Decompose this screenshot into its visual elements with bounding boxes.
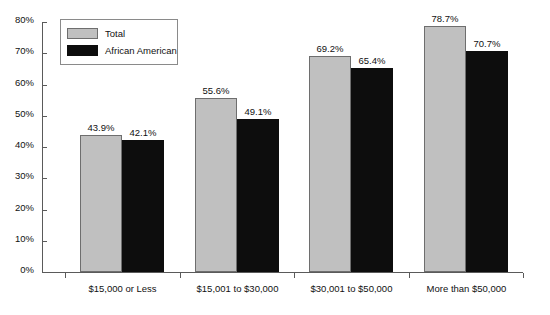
footnote-cropped — [40, 308, 470, 315]
y-axis-tick-label: 30% — [15, 171, 34, 181]
bar-value-label: 65.4% — [345, 55, 399, 66]
bar-value-label: 70.7% — [460, 38, 514, 49]
x-axis-tick-mark — [409, 273, 410, 278]
y-axis-tick-label: 80% — [15, 15, 34, 25]
bar-value-label: 49.1% — [231, 106, 285, 117]
y-axis-tick-label: 0% — [20, 265, 34, 275]
bar-value-label: 78.7% — [418, 13, 472, 24]
legend-label-african-american: African American — [105, 45, 177, 56]
y-axis-tick-mark — [42, 210, 47, 211]
y-axis-tick-mark — [42, 22, 47, 23]
x-axis-tick-mark — [294, 273, 295, 278]
x-axis-tick-mark — [65, 273, 66, 278]
y-axis-tick-mark — [42, 85, 47, 86]
y-axis-tick-mark — [42, 178, 47, 179]
bar-value-label: 55.6% — [189, 85, 243, 96]
bar-african-american — [466, 51, 508, 272]
y-axis-tick-mark — [42, 147, 47, 148]
bar-african-american — [351, 68, 393, 272]
y-axis-tick-label: 10% — [15, 234, 34, 244]
y-axis-tick-mark — [42, 272, 47, 273]
chart-legend: Total African American — [60, 19, 178, 65]
bar-value-label: 42.1% — [116, 127, 170, 138]
legend-item-total: Total — [67, 25, 171, 42]
bar-chart: 0%10%20%30%40%50%60%70%80% 43.9%42.1%55.… — [0, 0, 550, 315]
legend-item-african-american: African American — [67, 42, 171, 59]
bar-african-american — [122, 140, 164, 272]
y-axis-tick-mark — [42, 53, 47, 54]
bar-total — [195, 98, 237, 272]
bar-value-label: 69.2% — [303, 43, 357, 54]
x-axis-tick-mark — [180, 273, 181, 278]
y-axis-tick-label: 60% — [15, 78, 34, 88]
bar-african-american — [237, 119, 279, 272]
y-axis-tick-label: 20% — [15, 203, 34, 213]
y-axis-tick-mark — [42, 116, 47, 117]
legend-label-total: Total — [105, 28, 125, 39]
x-axis-line — [42, 272, 523, 273]
legend-swatch-total-icon — [67, 28, 98, 39]
y-axis-tick-label: 70% — [15, 46, 34, 56]
y-axis-tick-mark — [42, 241, 47, 242]
bar-total — [80, 135, 122, 272]
legend-swatch-african-american-icon — [67, 45, 98, 56]
bar-total — [309, 56, 351, 272]
y-axis-tick-label: 50% — [15, 109, 34, 119]
x-axis-category-label: More than $50,000 — [397, 283, 536, 294]
bar-total — [424, 26, 466, 272]
x-axis-tick-mark — [523, 273, 524, 278]
y-axis-tick-label: 40% — [15, 140, 34, 150]
